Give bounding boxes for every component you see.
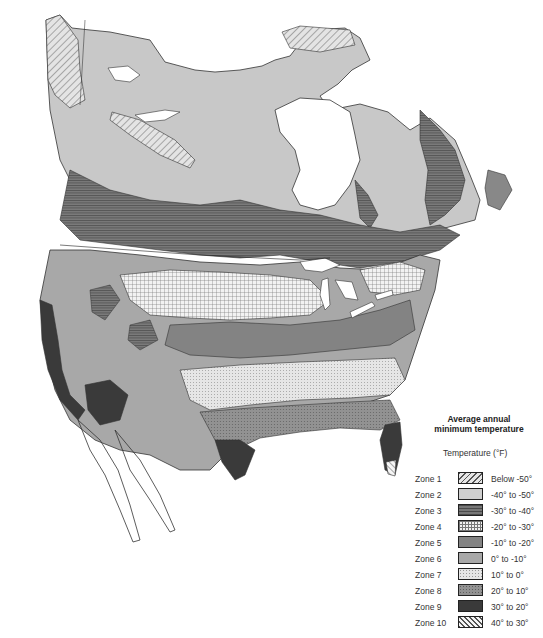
legend: Average annual minimum temperature Tempe… [415,414,543,458]
zone-label: Zone 2 [415,490,455,500]
zone-range: -40° to -50° [491,490,534,500]
zone4-swatch [458,520,483,532]
zone-range: 0° to -10° [491,554,527,564]
zone-range: Below -50° [491,474,532,484]
texas-zone9 [215,440,255,480]
zone-label: Zone 3 [415,506,455,516]
legend-row-zone5: Zone 5 -10° to -20° [415,536,543,550]
zone-label: Zone 9 [415,602,455,612]
newfoundland [485,170,512,210]
legend-row-zone10: Zone 10 40° to 30° [415,616,543,630]
legend-title-line2: minimum temperature [415,424,543,434]
legend-row-zone7: Zone 7 10° to 0° [415,568,543,582]
zone-label: Zone 5 [415,538,455,548]
zone3-swatch [458,504,483,516]
zone-label: Zone 6 [415,554,455,564]
zone9-swatch [458,600,483,612]
zone-label: Zone 7 [415,570,455,580]
northeast-zone4 [360,262,425,295]
zone-label: Zone 1 [415,474,455,484]
zone1-swatch [458,472,483,484]
zone-range: 10° to 0° [491,570,524,580]
legend-row-zone6: Zone 6 0° to -10° [415,552,543,566]
legend-row-zone8: Zone 8 20° to 10° [415,584,543,598]
zone2-swatch [458,488,483,500]
zone-label: Zone 4 [415,522,455,532]
zone6-swatch [458,552,483,564]
zone-range: -10° to -20° [491,538,534,548]
zone8-swatch [458,584,483,596]
legend-row-zone1: Zone 1 Below -50° [415,472,543,486]
legend-row-zone9: Zone 9 30° to 20° [415,600,543,614]
legend-row-zone4: Zone 4 -20° to -30° [415,520,543,534]
zone-range: 40° to 30° [491,618,529,628]
legend-row-zone2: Zone 2 -40° to -50° [415,488,543,502]
zone-range: 20° to 10° [491,586,529,596]
legend-subtitle: Temperature (°F) [443,448,543,458]
zone-range: -30° to -40° [491,506,534,516]
legend-title-line1: Average annual [415,414,543,424]
zone-range: -20° to -30° [491,522,534,532]
zone7-swatch [458,568,483,580]
zone-label: Zone 10 [415,618,455,628]
florida-tip-zone10 [386,460,396,476]
zone-range: 30° to 20° [491,602,529,612]
zone10-swatch [458,616,483,628]
zone5-swatch [458,536,483,548]
legend-row-zone3: Zone 3 -30° to -40° [415,504,543,518]
zone-label: Zone 8 [415,586,455,596]
